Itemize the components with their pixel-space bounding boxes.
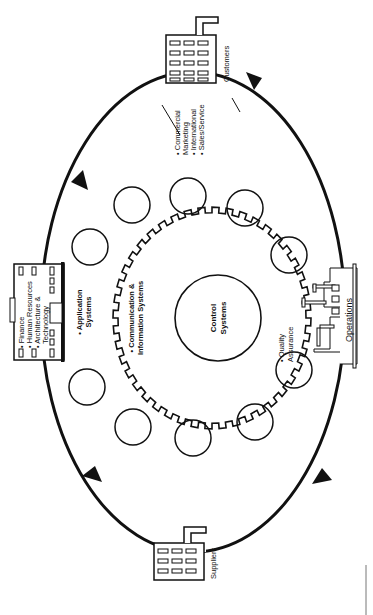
module-circle	[72, 229, 108, 265]
application-label-1: • Application	[75, 289, 84, 335]
callout-line	[232, 98, 240, 112]
center-label-1: Control	[209, 304, 218, 332]
control-systems-circle	[175, 275, 261, 361]
module-circle	[227, 190, 263, 226]
ring-label-2: Information Systems	[136, 281, 145, 355]
operations-label: Operations	[344, 297, 354, 342]
center-label-2: Systems	[219, 301, 228, 334]
quality-label-1: • Quality	[277, 334, 286, 362]
suppliers-label: Suppliers	[209, 547, 218, 579]
module-circle	[175, 420, 211, 456]
module-circle	[115, 409, 151, 445]
customers-building-icon	[166, 17, 218, 83]
module-circle	[69, 369, 105, 405]
module-circle	[114, 187, 150, 223]
hq-item-4: Technology	[41, 306, 50, 344]
module-circle	[237, 404, 273, 440]
ring-label-1: • Communication &	[127, 283, 136, 352]
quality-label-2: Assurance	[286, 327, 295, 362]
application-label-2: Systems	[84, 297, 93, 328]
module-circle	[170, 178, 206, 214]
module-circle	[271, 237, 307, 273]
customers-function-4: • Sales/Service	[197, 104, 206, 155]
module-circles	[69, 178, 312, 456]
customers-label: Customers	[222, 45, 231, 82]
enterprise-systems-diagram: Control Systems • Communication & Inform…	[0, 0, 373, 615]
